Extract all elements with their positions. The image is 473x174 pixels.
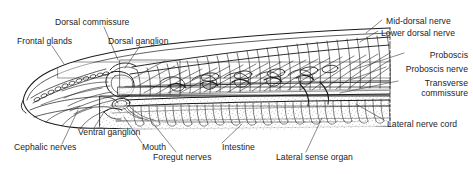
label-lateral-nerve-cord: Lateral nerve cord — [387, 119, 457, 129]
label-lateral-sense-organ: Lateral sense organ — [276, 152, 353, 162]
label-dorsal-commissure: Dorsal commissure — [55, 17, 129, 27]
label-transverse: Transverse — [368, 78, 468, 88]
label-frontal-glands: Frontal glands — [17, 36, 72, 46]
label-dorsal-ganglion: Dorsal ganglion — [108, 36, 168, 46]
label-proboscis: Proboscis — [368, 50, 468, 60]
anatomical-figure: Dorsal commissure Frontal glands Dorsal … — [0, 0, 473, 174]
label-commissure: commissure — [368, 88, 468, 98]
label-intestine: Intestine — [222, 142, 255, 152]
label-lower-dorsal-nerve: Lower dorsal nerve — [381, 28, 455, 38]
label-mouth: Mouth — [142, 142, 166, 152]
label-ventral-ganglion: Ventral ganglion — [78, 127, 140, 137]
label-cephalic-nerves: Cephalic nerves — [14, 142, 76, 152]
label-foregut-nerves: Foregut nerves — [153, 152, 212, 162]
label-mid-dorsal-nerve: Mid-dorsal nerve — [386, 16, 451, 26]
label-proboscis-nerve: Proboscis nerve — [368, 64, 468, 74]
